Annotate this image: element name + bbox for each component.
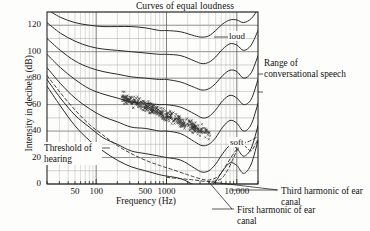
- y-tick-label: 100: [17, 46, 41, 56]
- y-tick-label: 60: [17, 99, 41, 109]
- y-tick-label: 0: [17, 178, 41, 188]
- x-tick-label: 1000: [149, 186, 183, 196]
- label-soft: soft: [229, 137, 245, 147]
- x-tick-label: 100: [79, 186, 113, 196]
- equal-loudness-chart-figure: Curves of equal loudness Intensity in de…: [0, 0, 370, 231]
- y-tick-label: 40: [17, 125, 41, 135]
- y-tick-label: 20: [17, 152, 41, 162]
- label-loud: loud: [228, 31, 246, 41]
- annotation-range-of-conversational-speech: Range of conversational speech: [264, 58, 354, 81]
- annotation-first-harmonic-of-ear-canal: First harmonic of ear canal: [237, 205, 337, 228]
- y-tick-label: 120: [17, 19, 41, 29]
- x-tick-label: 10,000: [220, 186, 254, 196]
- label-threshold-of-hearing: Threshold of hearing: [43, 142, 102, 165]
- y-tick-label: 80: [17, 72, 41, 82]
